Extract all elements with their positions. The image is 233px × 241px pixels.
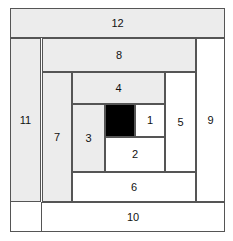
strip-4: 4	[72, 72, 165, 104]
strip-9: 9	[196, 38, 225, 202]
strip-11: 11	[10, 38, 41, 202]
strip-2: 2	[105, 137, 165, 172]
piece-label: 3	[85, 133, 91, 144]
strip-12: 12	[10, 8, 225, 38]
piece-label: 9	[207, 115, 213, 126]
piece-label: 2	[132, 149, 138, 160]
piece-label: 12	[111, 18, 123, 29]
piece-label: 10	[127, 212, 139, 223]
strip-7: 7	[42, 72, 72, 202]
piece-label: 5	[177, 117, 183, 128]
strip-5: 5	[165, 72, 196, 172]
strip-10: 10	[41, 202, 225, 232]
piece-label: 4	[115, 83, 121, 94]
strip-6: 6	[72, 172, 196, 202]
piece-label: 6	[131, 182, 137, 193]
strip-8: 8	[42, 38, 196, 72]
center-square	[105, 104, 135, 137]
piece-label: 8	[116, 50, 122, 61]
piece-label: 7	[54, 132, 60, 143]
piece-label: 11	[20, 115, 31, 126]
strip-3: 3	[72, 104, 105, 172]
strip-1: 1	[135, 104, 165, 137]
quilt-block-diagram: 123456789101112	[0, 0, 233, 241]
piece-label: 1	[147, 115, 153, 126]
